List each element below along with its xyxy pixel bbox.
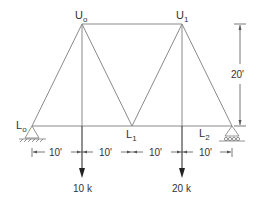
dim-label-3: 10': [149, 147, 162, 158]
truss-diagram: Uo U1 Lo L1 L2 10' 10' 10' 10' 20': [0, 0, 276, 201]
node-label-l1: L1: [126, 128, 137, 143]
dim-label-1: 10': [49, 147, 62, 158]
load-label-10k: 10 k: [73, 183, 93, 194]
member-u1-l2: [182, 24, 232, 126]
node-label-l2: L2: [199, 127, 210, 142]
load-label-20k: 20 k: [172, 183, 192, 194]
node-label-u1: U1: [176, 9, 189, 24]
dim-label-height: 20': [231, 69, 244, 80]
member-l1-u1: [132, 24, 182, 126]
node-label-u0: Uo: [75, 9, 88, 24]
dim-label-4: 10': [199, 147, 212, 158]
dim-label-2: 10': [99, 147, 112, 158]
member-l0-u0: [32, 24, 82, 126]
node-label-l0: Lo: [16, 119, 27, 134]
roller-support-right: [219, 126, 245, 141]
member-u0-l1: [82, 24, 132, 126]
